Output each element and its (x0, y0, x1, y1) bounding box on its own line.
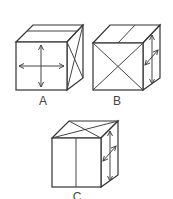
cube-b-label: B (113, 94, 121, 108)
cube-a-label: A (39, 94, 47, 108)
cube-b: B (93, 25, 160, 108)
cube-a: A (16, 25, 83, 108)
cube-c: C (52, 121, 118, 199)
cubes-diagram: A B C (0, 0, 173, 199)
cube-c-label: C (73, 190, 82, 199)
